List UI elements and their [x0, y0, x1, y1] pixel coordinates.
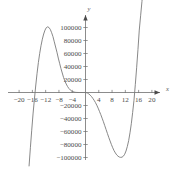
x-axis-label: x — [165, 85, 169, 92]
plot-canvas: x y −20−16−12−8−448121620 −100000−80000−… — [0, 0, 176, 169]
x-axis-tick-label: 12 — [122, 96, 130, 104]
y-axis-tick-label: 100000 — [60, 24, 82, 32]
x-axis-tick-label: 8 — [110, 96, 114, 104]
x-axis-arrow-icon — [155, 90, 161, 94]
x-axis-tick-label: 16 — [135, 96, 143, 104]
x-axis-tick-label: −20 — [14, 96, 26, 104]
y-axis-tick-label: −40000 — [60, 115, 82, 123]
y-axis-tick-label: −80000 — [60, 141, 82, 149]
graph-figure: x y −20−16−12−8−448121620 −100000−80000−… — [0, 0, 176, 169]
y-axis-tick-label: 80000 — [64, 37, 82, 45]
y-axis-tick-label: −60000 — [60, 128, 82, 136]
y-tick-group: −100000−80000−60000−40000−20000200004000… — [56, 24, 87, 162]
y-axis-arrow-icon — [83, 15, 87, 21]
y-axis-tick-label: 40000 — [64, 63, 82, 71]
y-axis-label: y — [87, 5, 91, 12]
y-axis-group: y — [83, 5, 90, 160]
x-axis-tick-label: 4 — [97, 96, 101, 104]
x-axis-tick-label: 20 — [148, 96, 156, 104]
x-axis-tick-label: −16 — [27, 96, 39, 104]
x-axis-tick-label: −12 — [40, 96, 52, 104]
y-axis-tick-label: −100000 — [56, 154, 82, 162]
y-axis-tick-label: 20000 — [64, 76, 82, 84]
y-axis-tick-label: 60000 — [64, 50, 82, 58]
polynomial-curve — [29, 0, 145, 166]
y-axis-tick-label: −20000 — [60, 102, 82, 110]
